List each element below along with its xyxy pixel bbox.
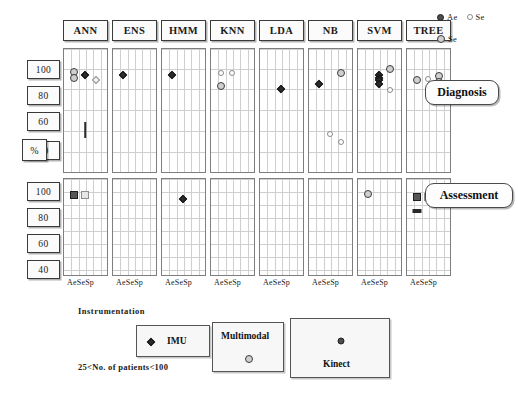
grid-line-vertical xyxy=(395,179,396,275)
grid-line-horizontal xyxy=(358,110,401,111)
data-point-nb-sp xyxy=(338,139,344,145)
instrumentation-title: Instrumentation xyxy=(78,306,145,316)
grid-line-horizontal xyxy=(113,270,156,271)
panel-header-svm: SVM xyxy=(357,20,402,41)
grid-line-horizontal xyxy=(113,69,156,70)
grid-line-horizontal xyxy=(64,270,107,271)
panel-hmm-diagnosis xyxy=(161,48,206,173)
y-tick-diagnosis-80: 80 xyxy=(27,86,60,105)
data-point-ann-ac xyxy=(70,74,78,82)
data-point-knn-ac xyxy=(217,82,225,90)
grid-line-horizontal xyxy=(309,152,352,153)
grid-line-vertical xyxy=(373,179,374,275)
grid-line-horizontal xyxy=(260,192,303,193)
grid-line-horizontal xyxy=(309,244,352,245)
row-label-diagnosis: Diagnosis xyxy=(425,80,499,105)
grid-line-vertical xyxy=(142,179,143,275)
x-axis-tick-label: AeSeSp xyxy=(214,278,241,287)
instrumentation-label-imu: IMU xyxy=(167,336,187,346)
legend-label-ae-0: Ae xyxy=(447,12,458,22)
grid-line-vertical xyxy=(233,179,234,275)
grid-line-horizontal xyxy=(260,110,303,111)
data-point-tree-ac xyxy=(413,209,422,213)
grid-line-horizontal xyxy=(309,110,352,111)
grid-line-horizontal xyxy=(309,231,352,232)
grid-line-horizontal xyxy=(162,218,205,219)
grid-line-horizontal xyxy=(260,270,303,271)
data-point-nb-sp xyxy=(337,69,345,77)
grid-line-vertical xyxy=(79,179,80,275)
grid-line-horizontal xyxy=(162,69,205,70)
x-axis-tick-label: AeSeSp xyxy=(410,278,437,287)
grid-line-vertical xyxy=(324,179,325,275)
grid-line-horizontal xyxy=(260,231,303,232)
grid-line-horizontal xyxy=(113,205,156,206)
grid-line-vertical xyxy=(338,179,339,275)
grid-line-horizontal xyxy=(407,218,450,219)
grid-line-vertical xyxy=(422,179,423,275)
grid-line-vertical xyxy=(150,179,151,275)
grid-line-vertical xyxy=(169,179,170,275)
data-point-svm-ac xyxy=(364,190,372,198)
panel-header-knn: KNN xyxy=(210,20,255,41)
grid-line-horizontal xyxy=(309,218,352,219)
figure-root: 100100808060604040%ANNAeSeSpENSAeSeSpHMM… xyxy=(0,0,518,401)
grid-line-horizontal xyxy=(211,218,254,219)
grid-line-horizontal xyxy=(64,231,107,232)
grid-line-horizontal xyxy=(260,179,303,180)
panel-tree-diagnosis xyxy=(406,48,451,173)
grid-line-horizontal xyxy=(260,49,303,50)
panel-ens-assessment xyxy=(112,178,157,276)
grid-line-horizontal xyxy=(309,49,352,50)
grid-line-vertical xyxy=(289,179,290,275)
grid-line-horizontal xyxy=(64,49,107,50)
grid-line-horizontal xyxy=(113,89,156,90)
grid-line-horizontal xyxy=(162,49,205,50)
grid-line-horizontal xyxy=(358,49,401,50)
grid-line-vertical xyxy=(93,179,94,275)
grid-line-horizontal xyxy=(113,192,156,193)
grid-line-horizontal xyxy=(113,131,156,132)
grid-line-vertical xyxy=(240,179,241,275)
grid-line-horizontal xyxy=(309,257,352,258)
grid-line-vertical xyxy=(120,179,121,275)
data-point-tree-ac xyxy=(413,76,421,84)
y-tick-diagnosis-60: 60 xyxy=(27,112,60,131)
grid-line-horizontal xyxy=(162,244,205,245)
grid-line-horizontal xyxy=(64,152,107,153)
grid-line-vertical xyxy=(248,179,249,275)
grid-line-horizontal xyxy=(211,205,254,206)
grid-line-horizontal xyxy=(407,69,450,70)
x-axis-tick-label: AeSeSp xyxy=(312,278,339,287)
grid-line-horizontal xyxy=(260,257,303,258)
grid-line-horizontal xyxy=(358,89,401,90)
grid-line-horizontal xyxy=(211,257,254,258)
grid-line-horizontal xyxy=(64,244,107,245)
data-point-svm-sp xyxy=(386,65,394,73)
y-tick-assessment-100: 100 xyxy=(27,182,60,201)
grid-line-horizontal xyxy=(113,110,156,111)
x-axis-tick-label: AeSeSp xyxy=(263,278,290,287)
grid-line-horizontal xyxy=(211,192,254,193)
grid-line-horizontal xyxy=(260,218,303,219)
panel-header-hmm: HMM xyxy=(161,20,206,41)
grid-line-horizontal xyxy=(309,69,352,70)
grid-line-horizontal xyxy=(64,205,107,206)
grid-line-horizontal xyxy=(309,205,352,206)
grid-line-horizontal xyxy=(211,131,254,132)
instrumentation-box-imu: IMU xyxy=(136,325,210,357)
legend-marker-filled-circle xyxy=(437,14,444,21)
grid-line-horizontal xyxy=(358,218,401,219)
instrumentation-box-multimodal: Multimodal xyxy=(212,322,284,372)
panel-ann-diagnosis xyxy=(63,48,108,173)
grid-line-vertical xyxy=(135,179,136,275)
grid-line-vertical xyxy=(282,179,283,275)
axis-unit-label: % xyxy=(22,139,47,161)
data-point-knn-ac xyxy=(218,70,224,76)
grid-line-horizontal xyxy=(113,231,156,232)
legend-top: AeSeSe xyxy=(437,12,517,52)
grid-line-horizontal xyxy=(64,179,107,180)
x-axis-tick-label: AeSeSp xyxy=(67,278,94,287)
data-point-ann-se xyxy=(81,191,89,199)
grid-line-horizontal xyxy=(211,179,254,180)
